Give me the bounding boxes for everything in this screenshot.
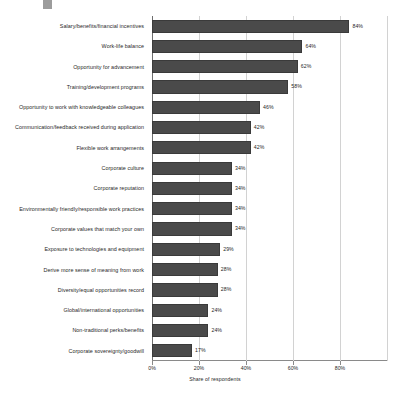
bar-value-label: 42% (254, 145, 265, 150)
bar[interactable] (152, 344, 192, 357)
bar[interactable] (152, 80, 288, 93)
x-tick-label: 80% (335, 366, 345, 371)
bar[interactable] (152, 121, 251, 134)
bar-value-label: 28% (221, 287, 232, 292)
x-tick-label: 60% (288, 366, 298, 371)
y-axis-label: Derive more sense of meaning from work (0, 260, 144, 280)
bar[interactable] (152, 101, 260, 114)
bar-row[interactable]: 34% (152, 222, 387, 235)
y-axis-label: Opportunity for advancement (0, 57, 144, 77)
bar[interactable] (152, 40, 302, 53)
x-axis-title: Share of respondents (0, 376, 408, 382)
bar-row[interactable]: 58% (152, 80, 387, 93)
bar[interactable] (152, 222, 232, 235)
bar-value-label: 24% (211, 328, 222, 333)
bar-row[interactable]: 62% (152, 60, 387, 73)
y-axis-label: Corporate reputation (0, 178, 144, 198)
scan-artifact-mark (43, 0, 52, 9)
bar-row[interactable]: 64% (152, 40, 387, 53)
y-axis-label: Work-life balance (0, 36, 144, 56)
plot-area: 84%64%62%58%46%42%42%34%34%34%34%29%28%2… (152, 16, 387, 361)
bar-value-label: 42% (254, 125, 265, 130)
y-axis-label: Flexible work arrangements (0, 138, 144, 158)
bar[interactable] (152, 182, 232, 195)
y-axis-label: Environmentally friendly/responsible wor… (0, 199, 144, 219)
x-tick-label: 40% (241, 366, 251, 371)
y-axis-label: Corporate culture (0, 158, 144, 178)
bar-row[interactable]: 28% (152, 263, 387, 276)
bar-row[interactable]: 34% (152, 162, 387, 175)
y-axis-label: Exposure to technologies and equipment (0, 239, 144, 259)
bar-value-label: 29% (223, 247, 234, 252)
bar-row[interactable]: 28% (152, 283, 387, 296)
bar-value-label: 84% (352, 24, 363, 29)
bar-value-label: 24% (211, 308, 222, 313)
y-axis-label: Diversity/equal opportunities record (0, 280, 144, 300)
bar[interactable] (152, 162, 232, 175)
y-axis-label: Global/international opportunities (0, 300, 144, 320)
bar-value-label: 17% (195, 348, 206, 353)
y-axis-label: Opportunity to work with knowledgeable c… (0, 97, 144, 117)
bar-row[interactable]: 84% (152, 20, 387, 33)
bar[interactable] (152, 141, 251, 154)
bar-value-label: 34% (235, 206, 246, 211)
bar-row[interactable]: 24% (152, 304, 387, 317)
gridline-100 (387, 16, 388, 361)
bar[interactable] (152, 324, 208, 337)
bar-value-label: 62% (301, 64, 312, 69)
y-axis-label: Corporate values that match your own (0, 219, 144, 239)
x-tick-label: 0% (148, 366, 156, 371)
y-axis-label: Training/development programs (0, 77, 144, 97)
bar[interactable] (152, 20, 349, 33)
bar[interactable] (152, 304, 208, 317)
bar-row[interactable]: 34% (152, 202, 387, 215)
bar-value-label: 34% (235, 226, 246, 231)
x-axis-title-text: Share of respondents (189, 376, 241, 382)
bar-row[interactable]: 29% (152, 243, 387, 256)
y-axis-label: Salary/benefits/financial incentives (0, 16, 144, 36)
bar-chart: Salary/benefits/financial incentivesWork… (0, 0, 408, 402)
bar-row[interactable]: 46% (152, 101, 387, 114)
bar-value-label: 64% (305, 44, 316, 49)
y-axis-category-labels: Salary/benefits/financial incentivesWork… (0, 16, 148, 361)
bar[interactable] (152, 283, 218, 296)
bar-row[interactable]: 42% (152, 141, 387, 154)
bar-value-label: 34% (235, 166, 246, 171)
bar-row[interactable]: 42% (152, 121, 387, 134)
y-axis-label: Non-traditional perks/benefits (0, 320, 144, 340)
bar-value-label: 46% (263, 105, 274, 110)
bar-rows: 84%64%62%58%46%42%42%34%34%34%34%29%28%2… (152, 16, 387, 361)
bar-value-label: 34% (235, 186, 246, 191)
bar[interactable] (152, 60, 298, 73)
bar[interactable] (152, 263, 218, 276)
bar-row[interactable]: 24% (152, 324, 387, 337)
x-tick-label: 20% (194, 366, 204, 371)
bar-value-label: 28% (221, 267, 232, 272)
y-axis-label: Communication/feedback received during a… (0, 117, 144, 137)
bar[interactable] (152, 202, 232, 215)
bar-value-label: 58% (291, 84, 302, 89)
y-axis-label: Corporate sovereignty/goodwill (0, 341, 144, 361)
bar[interactable] (152, 243, 220, 256)
bar-row[interactable]: 17% (152, 344, 387, 357)
bar-row[interactable]: 34% (152, 182, 387, 195)
